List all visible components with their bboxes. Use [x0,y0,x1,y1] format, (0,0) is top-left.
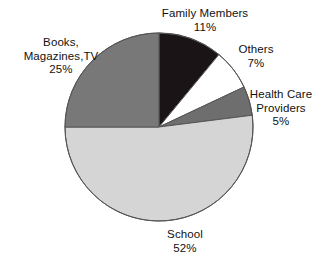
pie-label-health-care-providers-value: 5% [238,115,324,129]
pie-label-school-value: 52% [140,242,230,256]
pie-label-others-name: Others [216,43,296,57]
pie-label-health-care-providers-name-line2: Providers [238,102,324,116]
pie-label-family-members: Family Members 11% [146,7,264,34]
pie-label-health-care-providers-name-line1: Health Care [238,88,324,102]
pie-label-family-members-name: Family Members [146,7,264,21]
pie-label-books-magazines-tv-value: 25% [6,63,116,77]
pie-label-books-magazines-tv: Books, Magazines,TV 25% [6,36,116,77]
pie-label-books-magazines-tv-name-line2: Magazines,TV [6,50,116,64]
pie-label-others: Others 7% [216,43,296,70]
pie-slice-school [65,115,253,221]
pie-chart: Family Members 11% Others 7% Health Care… [0,0,326,261]
pie-label-others-value: 7% [216,57,296,71]
pie-label-school-name: School [140,228,230,242]
pie-label-school: School 52% [140,228,230,255]
pie-label-health-care-providers: Health Care Providers 5% [238,88,324,129]
pie-label-family-members-value: 11% [146,21,264,35]
pie-label-books-magazines-tv-name-line1: Books, [6,36,116,50]
